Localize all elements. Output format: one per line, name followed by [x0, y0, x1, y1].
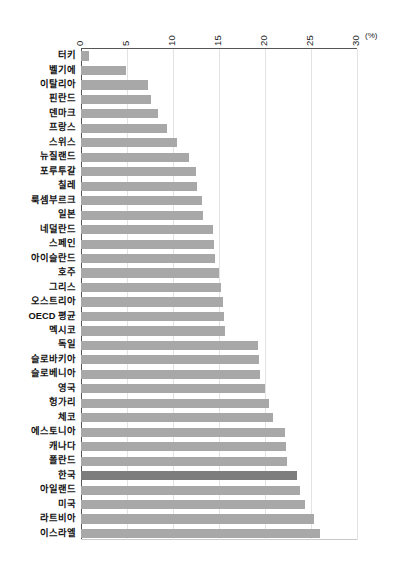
category-label: 에스토니아 — [0, 426, 76, 436]
bar-row — [81, 323, 357, 337]
bar — [81, 399, 269, 408]
bar-row — [81, 135, 357, 149]
bar-row — [81, 222, 357, 236]
bar-row — [81, 120, 357, 134]
x-axis: 051015202530 — [0, 0, 400, 48]
x-tick-label: 30 — [350, 35, 361, 46]
bar-row — [81, 497, 357, 511]
category-label: 이탈리아 — [0, 79, 76, 89]
category-label: 체코 — [0, 412, 76, 422]
category-label: 헝가리 — [0, 397, 76, 407]
bar-row — [81, 193, 357, 207]
gridline — [357, 49, 358, 540]
bar — [81, 514, 314, 523]
bar — [81, 529, 320, 538]
bar-row — [81, 77, 357, 91]
bar-row — [81, 91, 357, 105]
plot-area — [81, 48, 357, 540]
bar-row — [81, 236, 357, 250]
category-label: 독일 — [0, 339, 76, 349]
category-label: 핀란드 — [0, 93, 76, 103]
category-label: 폴란드 — [0, 455, 76, 465]
category-label: 칠레 — [0, 180, 76, 190]
bar-row — [81, 453, 357, 467]
bar — [81, 413, 273, 422]
bar — [81, 80, 148, 89]
category-label: 이스라엘 — [0, 528, 76, 538]
bar — [81, 124, 167, 133]
axis-unit-label: (%) — [365, 31, 377, 40]
bar — [81, 196, 202, 205]
category-label: 호주 — [0, 267, 76, 277]
category-label: 룩셈부르크 — [0, 195, 76, 205]
category-label: 그리스 — [0, 282, 76, 292]
category-label: OECD 평균 — [0, 311, 76, 321]
bar-row — [81, 337, 357, 351]
category-label: 미국 — [0, 499, 76, 509]
bar — [81, 153, 189, 162]
x-tick-label: 20 — [258, 35, 269, 46]
bar-row — [81, 164, 357, 178]
bar — [81, 486, 300, 495]
bar-row — [81, 48, 357, 62]
bar — [81, 66, 126, 75]
category-label: 오스트리아 — [0, 296, 76, 306]
bar-row — [81, 381, 357, 395]
bar-row — [81, 395, 357, 409]
bar — [81, 283, 221, 292]
bar — [81, 182, 197, 191]
bar — [81, 297, 223, 306]
bar — [81, 457, 287, 466]
bar — [81, 167, 196, 176]
category-label: 스위스 — [0, 137, 76, 147]
category-label: 멕시코 — [0, 325, 76, 335]
bar — [81, 312, 224, 321]
category-label: 터키 — [0, 50, 76, 60]
category-label: 포루투갈 — [0, 166, 76, 176]
category-label: 네덜란드 — [0, 224, 76, 234]
category-label: 프랑스 — [0, 122, 76, 132]
bar-row — [81, 280, 357, 294]
bar-row — [81, 511, 357, 525]
bar — [81, 51, 89, 60]
category-label: 슬로베니아 — [0, 368, 76, 378]
bar-row — [81, 308, 357, 322]
category-label: 슬로바키아 — [0, 354, 76, 364]
bar — [81, 428, 285, 437]
bar — [81, 254, 215, 263]
bar — [81, 211, 203, 220]
bar-chart: 051015202530 (%) 터키벨기에이탈리아핀란드덴마크프랑스스위스뉴질… — [0, 0, 400, 562]
category-label: 일본 — [0, 209, 76, 219]
bar-row — [81, 207, 357, 221]
bar — [81, 384, 265, 393]
bar-row — [81, 149, 357, 163]
bar — [81, 268, 219, 277]
bar-row — [81, 439, 357, 453]
bar-row — [81, 294, 357, 308]
x-tick-label: 5 — [120, 41, 131, 46]
bar-row — [81, 424, 357, 438]
category-label: 아이슬란드 — [0, 253, 76, 263]
bar — [81, 442, 286, 451]
bar — [81, 500, 305, 509]
category-label: 아일랜드 — [0, 484, 76, 494]
bar-row — [81, 526, 357, 540]
bar — [81, 341, 258, 350]
x-tick-label: 15 — [212, 35, 223, 46]
category-label: 덴마크 — [0, 108, 76, 118]
bar — [81, 471, 297, 480]
category-label: 벨기에 — [0, 65, 76, 75]
bar — [81, 355, 259, 364]
category-labels: 터키벨기에이탈리아핀란드덴마크프랑스스위스뉴질랜드포루투갈칠레룩셈부르크일본네덜… — [0, 48, 76, 540]
x-tick-label: 0 — [74, 41, 85, 46]
bar-row — [81, 265, 357, 279]
bar-row — [81, 468, 357, 482]
x-tick-label: 10 — [166, 35, 177, 46]
category-label: 영국 — [0, 383, 76, 393]
bar-row — [81, 62, 357, 76]
bar — [81, 326, 225, 335]
bar — [81, 370, 260, 379]
bar — [81, 225, 213, 234]
category-label: 스페인 — [0, 238, 76, 248]
x-tick-label: 25 — [304, 35, 315, 46]
